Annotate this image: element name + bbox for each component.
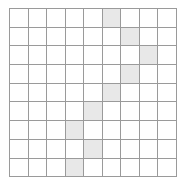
grid-row (10, 102, 177, 121)
grid-cell-empty[interactable] (28, 121, 47, 140)
grid-row (10, 46, 177, 65)
grid-cell-empty[interactable] (10, 9, 29, 28)
grid-cell-empty[interactable] (102, 121, 121, 140)
grid-cell-empty[interactable] (102, 27, 121, 46)
grid-cell-empty[interactable] (28, 65, 47, 84)
grid-cell-empty[interactable] (158, 46, 177, 65)
grid-cell-empty[interactable] (84, 83, 103, 102)
grid-cell-empty[interactable] (158, 27, 177, 46)
grid-row (10, 9, 177, 28)
grid-cell-empty[interactable] (65, 9, 84, 28)
grid-cell-shaded[interactable] (84, 139, 103, 158)
grid-cell-empty[interactable] (158, 83, 177, 102)
grid-cell-empty[interactable] (28, 46, 47, 65)
grid-canvas (0, 0, 186, 187)
grid-cell-empty[interactable] (121, 102, 140, 121)
grid-cell-empty[interactable] (102, 102, 121, 121)
grid-cell-empty[interactable] (139, 158, 158, 177)
grid-cell-empty[interactable] (65, 27, 84, 46)
grid-cell-empty[interactable] (28, 9, 47, 28)
grid-row (10, 27, 177, 46)
grid-cell-empty[interactable] (121, 158, 140, 177)
grid-cell-empty[interactable] (47, 83, 66, 102)
grid-cell-shaded[interactable] (121, 27, 140, 46)
grid-cell-empty[interactable] (139, 139, 158, 158)
grid-row (10, 65, 177, 84)
grid-row (10, 83, 177, 102)
grid-cell-empty[interactable] (65, 83, 84, 102)
grid-row (10, 121, 177, 140)
grid-cell-empty[interactable] (10, 158, 29, 177)
grid-cell-empty[interactable] (65, 102, 84, 121)
grid-cell-shaded[interactable] (139, 46, 158, 65)
grid-cell-shaded[interactable] (102, 9, 121, 28)
grid-row (10, 139, 177, 158)
grid-cell-empty[interactable] (84, 46, 103, 65)
grid-cell-empty[interactable] (65, 65, 84, 84)
grid-cell-empty[interactable] (84, 121, 103, 140)
grid-cell-empty[interactable] (28, 139, 47, 158)
grid-cell-empty[interactable] (10, 102, 29, 121)
grid-cell-empty[interactable] (158, 65, 177, 84)
grid-cell-shaded[interactable] (102, 83, 121, 102)
grid-cell-empty[interactable] (121, 46, 140, 65)
grid-cell-empty[interactable] (84, 65, 103, 84)
grid-cell-shaded[interactable] (65, 121, 84, 140)
grid-cell-empty[interactable] (139, 121, 158, 140)
grid-cell-empty[interactable] (10, 46, 29, 65)
grid-cell-empty[interactable] (28, 102, 47, 121)
grid-cell-empty[interactable] (47, 158, 66, 177)
grid-cell-empty[interactable] (10, 27, 29, 46)
grid-cell-empty[interactable] (10, 121, 29, 140)
grid-cell-empty[interactable] (47, 139, 66, 158)
grid-cell-empty[interactable] (10, 65, 29, 84)
grid-cell-empty[interactable] (84, 27, 103, 46)
grid-cell-empty[interactable] (84, 9, 103, 28)
grid-cell-empty[interactable] (28, 158, 47, 177)
grid-cell-empty[interactable] (47, 9, 66, 28)
grid-row (10, 158, 177, 177)
grid-cell-shaded[interactable] (84, 102, 103, 121)
grid-cell-empty[interactable] (121, 139, 140, 158)
grid-body (10, 9, 177, 177)
grid-cell-empty[interactable] (28, 27, 47, 46)
grid-cell-empty[interactable] (121, 121, 140, 140)
grid-cell-empty[interactable] (65, 139, 84, 158)
grid-cell-empty[interactable] (102, 65, 121, 84)
grid-cell-empty[interactable] (10, 83, 29, 102)
grid-cell-empty[interactable] (47, 121, 66, 140)
grid-cell-empty[interactable] (139, 9, 158, 28)
cell-grid (9, 8, 177, 177)
grid-cell-empty[interactable] (139, 65, 158, 84)
grid-cell-empty[interactable] (102, 46, 121, 65)
grid-cell-empty[interactable] (84, 158, 103, 177)
grid-cell-empty[interactable] (47, 102, 66, 121)
grid-cell-empty[interactable] (121, 9, 140, 28)
grid-cell-empty[interactable] (10, 139, 29, 158)
grid-cell-empty[interactable] (158, 121, 177, 140)
grid-cell-empty[interactable] (158, 139, 177, 158)
grid-cell-empty[interactable] (47, 65, 66, 84)
grid-cell-empty[interactable] (121, 83, 140, 102)
grid-cell-empty[interactable] (28, 83, 47, 102)
grid-cell-empty[interactable] (139, 83, 158, 102)
grid-cell-empty[interactable] (158, 9, 177, 28)
grid-cell-shaded[interactable] (65, 158, 84, 177)
grid-cell-empty[interactable] (47, 46, 66, 65)
grid-cell-empty[interactable] (139, 102, 158, 121)
grid-cell-empty[interactable] (65, 46, 84, 65)
grid-cell-shaded[interactable] (121, 65, 140, 84)
grid-cell-empty[interactable] (139, 27, 158, 46)
grid-cell-empty[interactable] (102, 158, 121, 177)
grid-cell-empty[interactable] (47, 27, 66, 46)
grid-cell-empty[interactable] (158, 158, 177, 177)
grid-cell-empty[interactable] (158, 102, 177, 121)
grid-cell-empty[interactable] (102, 139, 121, 158)
